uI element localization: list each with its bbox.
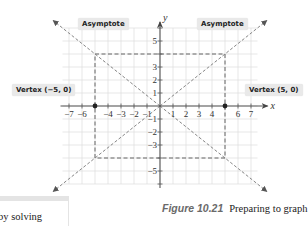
figure-caption: Figure 10.21 Preparing to graph x2 25 − … <box>162 193 308 223</box>
figure-label: Figure 10.21 <box>162 202 223 214</box>
svg-text:−7: −7 <box>64 109 74 119</box>
svg-text:−6: −6 <box>77 109 87 119</box>
svg-text:3: 3 <box>197 109 202 119</box>
svg-text:−5: −5 <box>147 166 157 176</box>
vertex-callout-left: Vertex (−5, 0) <box>12 84 75 96</box>
svg-text:y: y <box>162 12 168 23</box>
asymptote-callout-right: Asymptote <box>197 18 248 30</box>
caption-text: Preparing to graph <box>229 203 307 214</box>
axes: xy <box>61 12 276 188</box>
asymptote-callout-left: Asymptote <box>78 18 129 30</box>
svg-text:1: 1 <box>171 109 176 119</box>
svg-text:7: 7 <box>249 109 254 119</box>
svg-text:−2: −2 <box>147 127 157 137</box>
svg-text:3: 3 <box>153 62 158 72</box>
svg-text:1: 1 <box>153 88 158 98</box>
vertex-callout-right: Vertex (5, 0) <box>245 84 303 96</box>
svg-text:2: 2 <box>153 75 158 85</box>
svg-text:−3: −3 <box>147 140 157 150</box>
svg-text:−4: −4 <box>103 109 113 119</box>
svg-text:2: 2 <box>184 109 189 119</box>
svg-text:−1: −1 <box>147 114 157 124</box>
svg-text:−3: −3 <box>116 109 126 119</box>
svg-text:5: 5 <box>153 36 158 46</box>
svg-text:−2: −2 <box>129 109 139 119</box>
svg-text:6: 6 <box>236 109 241 119</box>
svg-text:x: x <box>270 100 276 111</box>
svg-text:4: 4 <box>210 109 215 119</box>
side-note-text: by solving <box>0 211 42 222</box>
